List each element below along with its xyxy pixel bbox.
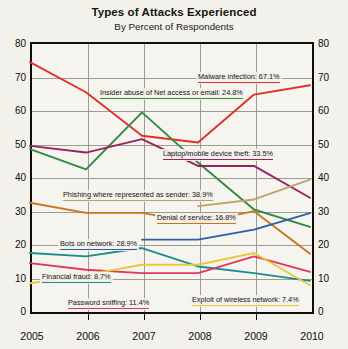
annotation-malware: Malware infection: 67.1%	[196, 72, 282, 84]
y-tick-label: 80	[318, 38, 344, 49]
y-tick-label: 60	[318, 105, 344, 116]
x-tick-label: 2010	[289, 330, 335, 342]
annotation-insider: Insider abuse of Net access or email: 24…	[98, 88, 245, 100]
x-tick-label: 2009	[233, 330, 279, 342]
annotation-label: Denial of service: 16.8%	[157, 213, 236, 222]
annotation-label: Financial fraud: 8.7%	[42, 272, 111, 281]
y-tick-label: 40	[318, 172, 344, 183]
series-line	[198, 180, 310, 206]
annotation-wireless: Exploit of wireless network: 7.4%	[190, 295, 301, 307]
x-tick-label: 2005	[9, 330, 55, 342]
annotation-phishing: Phishing where represented as sender: 38…	[61, 190, 215, 202]
annotation-label: Password sniffing: 11.4%	[68, 298, 149, 307]
x-tick-mark	[256, 314, 257, 320]
y-tick-label: 60	[0, 105, 26, 116]
annotation-fraud: Financial fraud: 8.7%	[40, 272, 113, 284]
y-tick-label: 80	[0, 38, 26, 49]
y-tick-label: 10	[0, 273, 26, 284]
annotation-label: Bots on network: 28.9%	[60, 239, 137, 248]
x-tick-label: 2006	[65, 330, 111, 342]
annotation-label: Exploit of wireless network: 7.4%	[192, 295, 299, 304]
chart-container: Types of Attacks Experienced By Percent …	[0, 0, 348, 349]
x-tick-mark	[144, 314, 145, 320]
annotation-underline	[63, 200, 213, 202]
y-tick-label: 70	[0, 72, 26, 83]
annotation-dos: Denial of service: 16.8%	[155, 213, 238, 225]
annotation-underline	[42, 282, 111, 284]
annotation-bots: Bots on network: 28.9%	[58, 239, 139, 251]
y-tick-label: 0	[318, 306, 344, 317]
y-tick-label: 10	[318, 273, 344, 284]
annotation-laptop: Laptop/mobile device theft: 33.5%	[161, 149, 275, 161]
annotation-underline	[157, 223, 236, 225]
y-tick-label: 20	[318, 239, 344, 250]
y-tick-label: 70	[318, 72, 344, 83]
y-tick-label: 0	[0, 306, 26, 317]
annotation-label: Phishing where represented as sender: 38…	[63, 190, 213, 199]
annotation-underline	[68, 308, 149, 310]
chart-title: Types of Attacks Experienced	[0, 6, 348, 18]
annotation-underline	[60, 249, 137, 251]
annotation-label: Malware infection: 67.1%	[198, 72, 280, 81]
annotation-underline	[198, 82, 280, 84]
y-tick-label: 30	[318, 206, 344, 217]
x-tick-mark	[88, 314, 89, 320]
annotation-password: Password sniffing: 11.4%	[66, 298, 151, 310]
chart-subtitle: By Percent of Respondents	[0, 21, 348, 32]
annotation-underline	[192, 305, 299, 307]
y-tick-label: 20	[0, 239, 26, 250]
annotation-underline	[163, 159, 273, 161]
x-tick-label: 2007	[121, 330, 167, 342]
y-tick-label: 30	[0, 206, 26, 217]
y-tick-label: 50	[0, 139, 26, 150]
annotation-label: Insider abuse of Net access or email: 24…	[100, 88, 243, 97]
annotation-label: Laptop/mobile device theft: 33.5%	[163, 149, 273, 158]
x-tick-label: 2008	[177, 330, 223, 342]
x-tick-mark	[200, 314, 201, 320]
y-tick-label: 50	[318, 139, 344, 150]
series-line	[30, 139, 310, 198]
y-tick-label: 40	[0, 172, 26, 183]
annotation-underline	[100, 98, 243, 100]
